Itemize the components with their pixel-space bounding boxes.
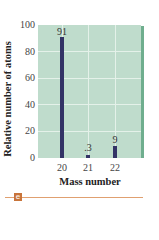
gridline-20 [38,131,141,132]
y-axis-label: Relative number of atoms [2,29,16,169]
x-tick-20: 20 [52,162,72,173]
gridline-60 [38,78,141,79]
x-tick-22: 22 [105,162,125,173]
plot-area: 91 .3 9 [38,25,141,158]
plot-edge-shadow [141,26,144,158]
y-tick-80: 80 [18,47,35,57]
gridline-40 [38,104,141,105]
x-axis-label: Mass number [40,176,140,187]
bar-label-21: .3 [78,143,98,153]
panel-badge: e [14,193,22,201]
y-tick-20: 20 [18,126,35,136]
gridline-x21 [88,25,89,158]
y-tick-60: 60 [18,73,35,83]
bar-label-20: 91 [52,27,72,37]
y-tick-0: 0 [18,153,35,163]
y-tick-40: 40 [18,100,35,110]
footer-rule [5,197,143,198]
bar-22 [113,146,117,158]
bar-21 [86,155,90,158]
y-tick-100: 100 [18,20,35,30]
bar-label-22: 9 [105,135,125,145]
bar-20 [60,37,64,158]
x-tick-21: 21 [78,162,98,173]
gridline-80 [38,51,141,52]
